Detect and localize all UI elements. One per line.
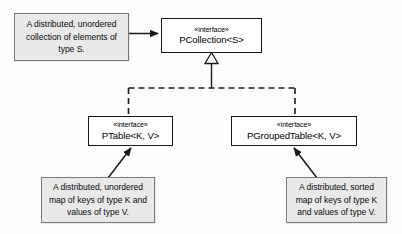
connector-note-to-pgroupedtable bbox=[294, 148, 317, 178]
note-pgroupedtable-text: A distributed, sorted map of keys of typ… bbox=[291, 181, 382, 218]
note-pgroupedtable: A distributed, sorted map of keys of typ… bbox=[286, 177, 387, 223]
interface-pcollection-name: PCollection<S> bbox=[179, 34, 244, 46]
note-ptable: A distributed, unordered map of keys of … bbox=[41, 177, 155, 223]
interface-pgroupedtable-name: PGroupedTable<K, V> bbox=[247, 130, 341, 142]
interface-ptable-stereotype: «interface» bbox=[113, 120, 147, 129]
interface-pgroupedtable[interactable]: «interface» PGroupedTable<K, V> bbox=[231, 116, 357, 146]
interface-pcollection-stereotype: «interface» bbox=[194, 25, 228, 34]
note-ptable-text: A distributed, unordered map of keys of … bbox=[46, 181, 150, 218]
note-pcollection-text: A distributed, unordered collection of e… bbox=[19, 18, 124, 55]
note-pcollection: A distributed, unordered collection of e… bbox=[14, 13, 129, 61]
connector-note-to-ptable bbox=[108, 148, 131, 178]
interface-pgroupedtable-stereotype: «interface» bbox=[277, 120, 311, 129]
generalization-connector bbox=[129, 64, 296, 117]
interface-ptable-name: PTable<K, V> bbox=[102, 130, 159, 142]
generalization-arrowhead bbox=[205, 53, 218, 64]
interface-pcollection[interactable]: «interface» PCollection<S> bbox=[161, 18, 262, 53]
interface-ptable[interactable]: «interface» PTable<K, V> bbox=[88, 116, 173, 146]
uml-diagram-canvas: A distributed, unordered collection of e… bbox=[0, 0, 402, 234]
